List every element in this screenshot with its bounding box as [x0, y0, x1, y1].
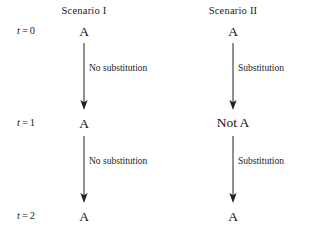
substitution-scenarios-diagram: Scenario I Scenario II t=0 t=1 t=2 A No … — [0, 0, 318, 241]
node-scenario1-t2: A — [54, 210, 114, 224]
node-scenario1-t1: A — [54, 117, 114, 131]
time-label-t1-equals: = — [20, 117, 30, 128]
time-label-t2-equals: = — [20, 210, 30, 221]
column-header-scenario-1: Scenario I — [46, 5, 122, 16]
time-label-t0-value: 0 — [30, 25, 35, 36]
arrow-scenario1-t0-to-t1 — [78, 43, 90, 111]
column-header-scenario-2: Scenario II — [195, 5, 271, 16]
arrow-scenario2-t1-to-t2 — [227, 136, 239, 204]
edge-label-scenario2-t0-to-t1: Substitution — [238, 64, 284, 74]
node-scenario1-t0: A — [54, 25, 114, 39]
arrow-scenario1-t1-to-t2 — [78, 136, 90, 204]
node-scenario2-t1: Not A — [193, 116, 273, 130]
time-label-t0: t=0 — [17, 25, 35, 36]
node-scenario2-t0: A — [203, 25, 263, 39]
time-label-t2-value: 2 — [30, 210, 35, 221]
node-scenario2-t2: A — [203, 210, 263, 224]
time-label-t0-equals: = — [20, 25, 30, 36]
edge-label-scenario2-t1-to-t2: Substitution — [238, 157, 284, 167]
edge-label-scenario1-t0-to-t1: No substitution — [89, 64, 147, 74]
time-label-t1: t=1 — [17, 117, 35, 128]
time-label-t1-value: 1 — [30, 117, 35, 128]
edge-label-scenario1-t1-to-t2: No substitution — [89, 157, 147, 167]
arrow-scenario2-t0-to-t1 — [227, 43, 239, 111]
time-label-t2: t=2 — [17, 210, 35, 221]
